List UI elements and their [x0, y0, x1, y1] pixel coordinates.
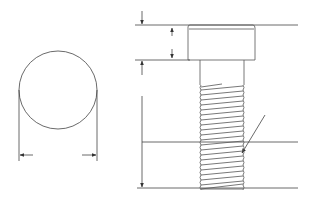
bolt-side-view: [188, 25, 255, 190]
thread-right-profile: [243, 85, 244, 190]
end-view: [19, 51, 97, 161]
bolt-head: [188, 25, 255, 60]
thread-leader-arrow: [242, 115, 265, 153]
thread-left-profile: [200, 85, 201, 190]
thread-start: [201, 84, 222, 87]
bolt-cross-section-circle: [19, 51, 97, 129]
technical-drawing: [0, 0, 313, 198]
thread-helix-lines: [201, 86, 243, 185]
side-view-dimensions: [135, 11, 298, 188]
